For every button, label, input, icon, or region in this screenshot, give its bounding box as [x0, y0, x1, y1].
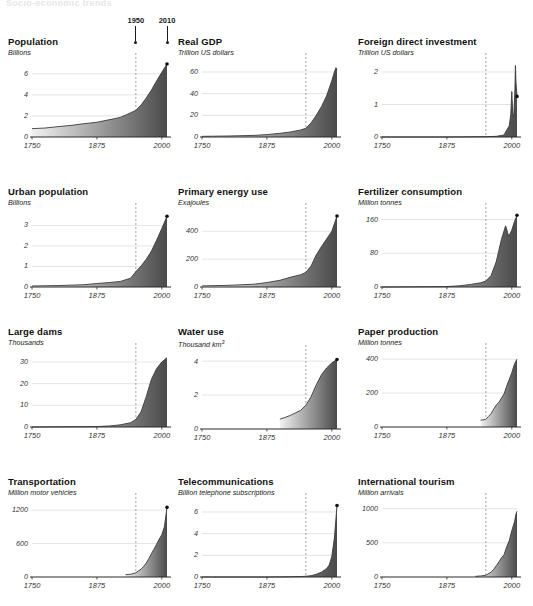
chart-panel: Foreign direct investmentTrillion US dol…	[358, 36, 523, 153]
y-axis-tick-label: 2	[358, 68, 378, 76]
y-axis-tick-label: 40	[178, 90, 198, 98]
chart-panel: Fertilizer consumptionMillion tonnes0801…	[358, 186, 523, 303]
y-axis-tick-label: 3	[8, 221, 28, 229]
x-axis-tick-label: 1750	[20, 581, 44, 590]
y-axis-tick-label: 2	[178, 551, 198, 559]
plot-svg	[8, 209, 173, 303]
plot-svg	[358, 349, 523, 443]
series-line	[382, 66, 517, 138]
series-end-point	[335, 214, 339, 218]
plot-area: 0123175018752000	[8, 209, 173, 303]
series-area	[280, 360, 337, 430]
plot-area: 0204060175018752000	[178, 59, 343, 153]
series-area	[382, 215, 517, 287]
chart-title: Foreign direct investment	[358, 36, 523, 47]
y-axis-tick-label: 600	[8, 540, 28, 548]
y-axis-tick-label: 1200	[8, 506, 28, 514]
chart-unit-label: Trillion US dollars	[178, 48, 343, 57]
x-axis-tick-label: 1875	[85, 581, 109, 590]
y-axis-tick-label: 200	[358, 389, 378, 397]
series-area	[475, 511, 517, 577]
x-axis-tick-label: 1875	[255, 141, 279, 150]
y-axis-tick-label: 30	[8, 358, 28, 366]
series-area	[32, 216, 167, 287]
chart-unit-label: Thousand km3	[178, 338, 343, 349]
chart-panel: Real GDPTrillion US dollars0204060175018…	[178, 36, 343, 153]
x-axis-tick-label: 2000	[320, 433, 344, 442]
series-area	[382, 66, 517, 138]
chart-panel: Paper productionMillion tonnes0200400175…	[358, 326, 523, 443]
y-axis-tick-label: 2	[8, 112, 28, 120]
x-axis-tick-label: 1875	[435, 431, 459, 440]
y-axis-tick-label: 60	[178, 68, 198, 76]
chart-title: Real GDP	[178, 36, 343, 47]
plot-svg	[8, 349, 173, 443]
series-line	[202, 506, 337, 578]
x-axis-tick-label: 1750	[190, 291, 214, 300]
chart-unit-label: Million arrivals	[358, 488, 523, 497]
panel-grid: PopulationBillions0246175018752000Real G…	[0, 0, 533, 606]
y-axis-tick-label: 0	[358, 573, 378, 581]
x-axis-tick-label: 2000	[150, 141, 174, 150]
x-axis-tick-label: 2000	[500, 141, 524, 150]
y-axis-tick-label: 200	[178, 255, 198, 263]
x-axis-tick-label: 1750	[20, 141, 44, 150]
x-axis-tick-label: 1750	[190, 433, 214, 442]
series-area	[202, 68, 337, 137]
y-axis-tick-label: 6	[178, 508, 198, 516]
series-end-point	[165, 214, 169, 218]
x-axis-tick-label: 2000	[500, 581, 524, 590]
x-axis-tick-label: 1750	[370, 431, 394, 440]
chart-panel: Primary energy useExajoules0200400175018…	[178, 186, 343, 303]
y-axis-tick-label: 4	[8, 91, 28, 99]
x-axis-tick-label: 1750	[370, 581, 394, 590]
chart-title: Large dams	[8, 326, 173, 337]
x-axis-tick-label: 1875	[255, 291, 279, 300]
chart-panel: Urban populationBillions0123175018752000	[8, 186, 173, 303]
chart-unit-label: Billions	[8, 198, 173, 207]
socio-economic-trends-figure: Socio-economic trends 19502010 Populatio…	[0, 0, 533, 606]
x-axis-tick-label: 1875	[85, 431, 109, 440]
plot-svg	[8, 499, 173, 593]
y-axis-tick-label: 0	[178, 425, 198, 433]
x-axis-tick-label: 2000	[320, 291, 344, 300]
chart-unit-label: Trillion US dollars	[358, 48, 523, 57]
series-end-point	[165, 62, 169, 66]
chart-panel: Large damsThousands0102030175018752000	[8, 326, 173, 443]
x-axis-tick-label: 2000	[320, 141, 344, 150]
x-axis-tick-label: 2000	[150, 291, 174, 300]
x-axis-tick-label: 2000	[500, 291, 524, 300]
chart-title: Urban population	[8, 186, 173, 197]
plot-area: 0246175018752000	[8, 59, 173, 153]
plot-area: 0246175018752000	[178, 499, 343, 593]
y-axis-tick-label: 400	[178, 227, 198, 235]
chart-title: Fertilizer consumption	[358, 186, 523, 197]
chart-unit-label: Billions	[8, 48, 173, 57]
y-axis-tick-label: 20	[178, 111, 198, 119]
plot-area: 06001200175018752000	[8, 499, 173, 593]
x-axis-tick-label: 1875	[85, 141, 109, 150]
x-axis-tick-label: 1875	[435, 581, 459, 590]
series-area	[32, 358, 167, 427]
chart-unit-label: Billion telephone subscriptions	[178, 488, 343, 497]
y-axis-tick-label: 6	[8, 70, 28, 78]
plot-svg	[358, 499, 523, 593]
chart-unit-label: Million tonnes	[358, 198, 523, 207]
x-axis-tick-label: 1875	[255, 581, 279, 590]
y-axis-tick-label: 0	[358, 283, 378, 291]
plot-area: 0102030175018752000	[8, 349, 173, 443]
series-end-point	[335, 504, 339, 508]
x-axis-tick-label: 1875	[85, 291, 109, 300]
plot-svg	[8, 59, 173, 153]
plot-svg	[178, 499, 343, 593]
chart-title: Population	[8, 36, 173, 47]
y-axis-tick-label: 0	[8, 133, 28, 141]
y-axis-tick-label: 10	[8, 401, 28, 409]
y-axis-tick-label: 2	[178, 391, 198, 399]
y-axis-tick-label: 400	[358, 355, 378, 363]
plot-area: 0200400175018752000	[178, 209, 343, 303]
series-end-point	[335, 358, 339, 362]
chart-unit-label: Exajoules	[178, 198, 343, 207]
y-axis-tick-label: 1000	[358, 505, 378, 513]
chart-panel: TelecommunicationsBillion telephone subs…	[178, 476, 343, 593]
